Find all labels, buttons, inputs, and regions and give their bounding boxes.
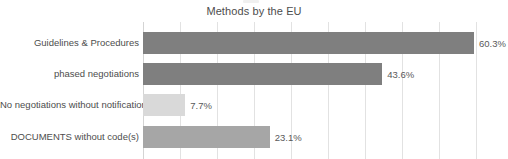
category-axis: Guidelines & Procedures phased negotiati… [0,22,139,159]
bar-value-label: 60.3% [474,38,506,49]
bar-row: 23.1% [143,126,508,148]
bar-value-label: 23.1% [270,132,302,143]
category-label: DOCUMENTS without code(s) [0,126,139,148]
bar[interactable] [143,94,185,116]
crop-artifact [243,0,259,3]
bar-value-label: 43.6% [382,69,414,80]
bar[interactable] [143,126,270,148]
bar-row: 7.7% [143,94,508,116]
chart-title: Methods by the EU [0,5,508,17]
bar-value-label: 7.7% [185,100,212,111]
bar[interactable] [143,32,474,54]
category-label: phased negotiations [0,63,139,85]
plot-area: 60.3% 43.6% 7.7% 23.1% [143,22,508,159]
bar-row: 60.3% [143,32,508,54]
bar-row: 43.6% [143,63,508,85]
category-label: No negotiations without notification [0,94,139,116]
category-label: Guidelines & Procedures [0,32,139,54]
bar-chart: Methods by the EU Guidelines & Procedure… [0,0,508,159]
bar[interactable] [143,63,382,85]
bar-rows: 60.3% 43.6% 7.7% 23.1% [143,22,508,159]
